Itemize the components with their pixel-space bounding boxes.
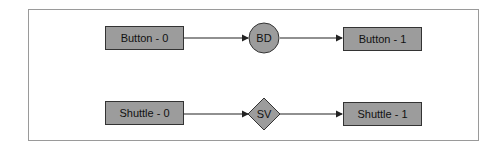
node-label: Button - 0 bbox=[121, 32, 169, 44]
node-label: Shuttle - 0 bbox=[119, 107, 169, 119]
node-label: Shuttle - 1 bbox=[357, 108, 407, 120]
node-label: Button - 1 bbox=[359, 33, 407, 45]
node-button-1: Button - 1 bbox=[343, 27, 422, 51]
connectors bbox=[0, 0, 503, 147]
bd-label: BD bbox=[249, 32, 279, 44]
sv-label: SV bbox=[249, 108, 279, 120]
node-shuttle-1: Shuttle - 1 bbox=[343, 102, 422, 126]
node-button-0: Button - 0 bbox=[105, 26, 184, 50]
node-shuttle-0: Shuttle - 0 bbox=[105, 101, 184, 125]
